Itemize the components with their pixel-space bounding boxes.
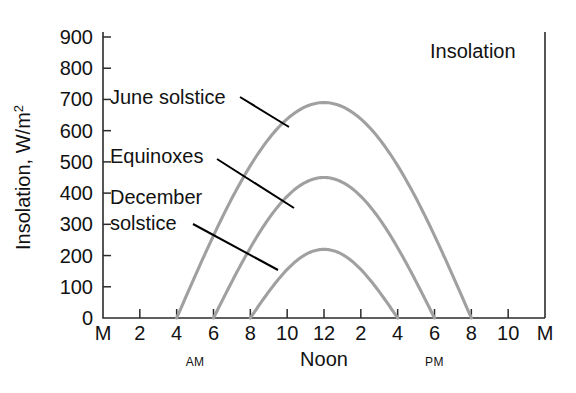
chart-canvas: 0100200300400500600700800900M24681012246… — [0, 0, 576, 393]
x-axis-tick-label: 6 — [429, 322, 440, 344]
x-axis-tick-label: 4 — [392, 322, 403, 344]
y-axis-tick-label: 700 — [60, 88, 93, 110]
x-axis-tick-label: 4 — [171, 322, 182, 344]
annotation-leader-line — [240, 97, 289, 127]
annotation-leader-line — [193, 224, 278, 270]
x-axis-period-label: AM — [186, 355, 205, 369]
x-axis-tick-label: M — [95, 322, 112, 344]
x-axis-period-label: Noon — [300, 348, 348, 370]
y-axis-title: Insolation, W/m2 — [11, 105, 35, 250]
x-axis-tick-label: 2 — [355, 322, 366, 344]
axis-frame — [103, 32, 545, 318]
y-axis-tick-label: 500 — [60, 151, 93, 173]
y-axis-tick-label: 800 — [60, 57, 93, 79]
insolation-curve — [177, 103, 472, 318]
plot-title: Insolation — [430, 40, 516, 62]
x-axis-tick-label: 12 — [313, 322, 335, 344]
x-axis-tick-label: M — [537, 322, 554, 344]
y-axis-tick-label: 100 — [60, 276, 93, 298]
series-annotation-label: Equinoxes — [110, 145, 203, 167]
x-axis-tick-label: 2 — [134, 322, 145, 344]
x-axis-tick-label: 8 — [466, 322, 477, 344]
y-axis-tick-label: 900 — [60, 26, 93, 48]
x-axis-period-label: PM — [425, 355, 444, 369]
chart-axes — [103, 32, 545, 318]
y-axis-tick-label: 0 — [82, 307, 93, 329]
x-axis-tick-label: 8 — [245, 322, 256, 344]
series-annotation-label: Decembersolstice — [110, 186, 203, 234]
x-axis-tick-label: 10 — [276, 322, 298, 344]
insolation-curve — [250, 249, 397, 318]
y-axis-tick-label: 200 — [60, 245, 93, 267]
annotation-leader-line — [217, 159, 294, 208]
chart-curves — [177, 103, 472, 318]
y-axis-tick-label: 400 — [60, 182, 93, 204]
insolation-curve — [214, 178, 435, 319]
series-annotation-label: June solstice — [110, 86, 226, 108]
y-axis-tick-label: 300 — [60, 213, 93, 235]
x-axis-tick-label: 10 — [497, 322, 519, 344]
x-axis-tick-label: 6 — [208, 322, 219, 344]
y-axis-tick-label: 600 — [60, 120, 93, 142]
insolation-chart: 0100200300400500600700800900M24681012246… — [0, 0, 576, 393]
